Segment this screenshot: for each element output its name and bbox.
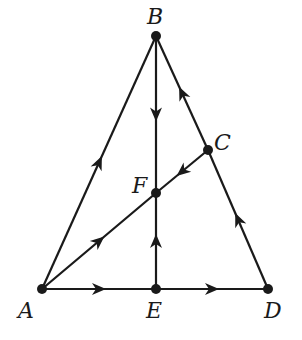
label-point-f: F bbox=[132, 175, 147, 197]
label-point-c: C bbox=[214, 132, 231, 154]
label-point-b: B bbox=[147, 6, 163, 28]
label-point-a: A bbox=[18, 300, 34, 322]
diagram-graphic bbox=[0, 0, 302, 340]
edges bbox=[42, 36, 268, 289]
node-d bbox=[263, 284, 273, 294]
arrow-heads bbox=[90, 84, 247, 295]
node-a bbox=[37, 284, 47, 294]
node-b bbox=[151, 31, 161, 41]
label-point-d: D bbox=[264, 300, 282, 322]
arrow-icon bbox=[230, 211, 247, 229]
triangle-diagram: A B C D E F bbox=[0, 0, 302, 340]
arrow-icon bbox=[91, 154, 108, 172]
node-c bbox=[203, 145, 213, 155]
arrow-icon bbox=[174, 84, 191, 102]
node-f bbox=[151, 188, 161, 198]
node-e bbox=[151, 284, 161, 294]
label-point-e: E bbox=[146, 300, 162, 322]
